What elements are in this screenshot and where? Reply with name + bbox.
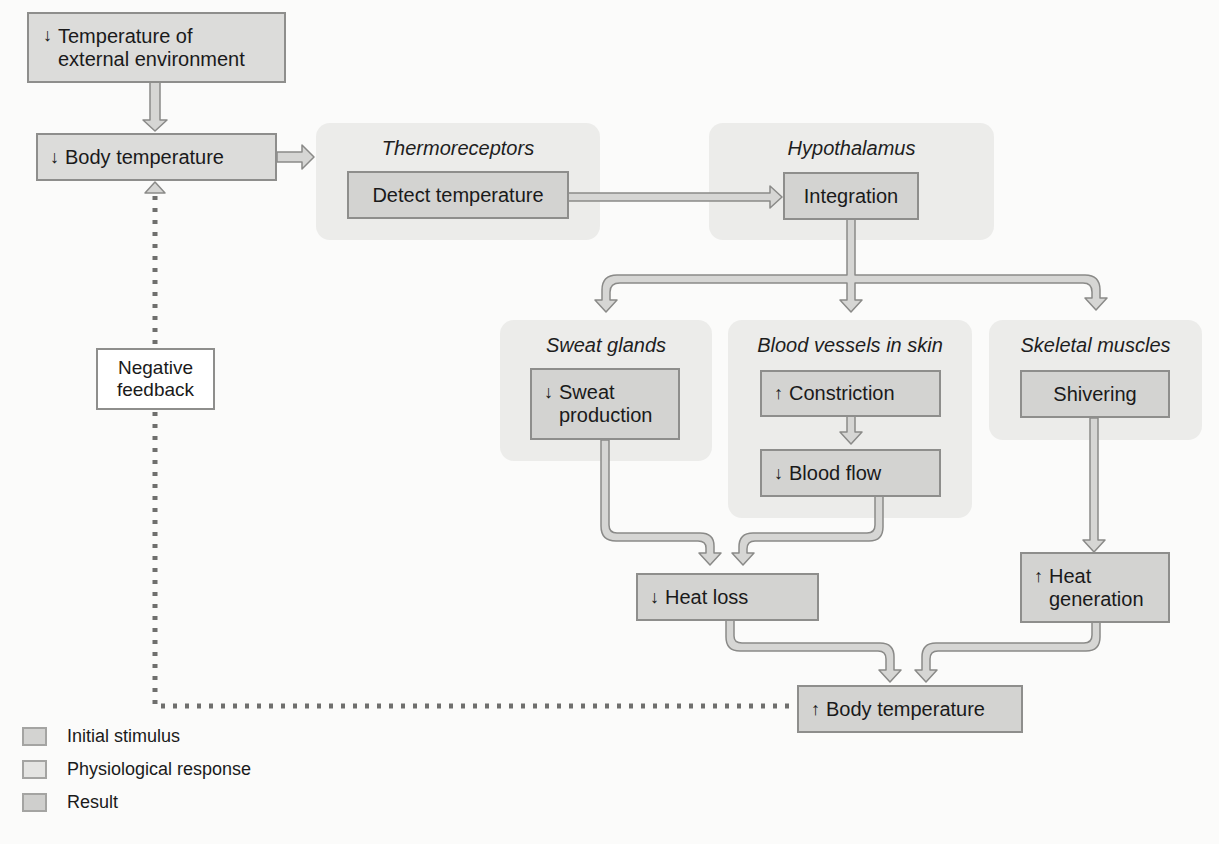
arrow-sweat-to-heat-loss: [601, 440, 721, 565]
negative-feedback-label: Negative feedback: [96, 348, 215, 410]
up-arrow-icon: ↑: [1034, 565, 1043, 588]
down-arrow-icon: ↓: [43, 24, 52, 47]
constriction-text: Constriction: [789, 382, 895, 405]
negative-feedback-line: [155, 196, 796, 706]
integration-box: Integration: [783, 172, 919, 220]
body-temperature-decrease-box: ↓ Body temperature: [36, 133, 277, 181]
legend-swatch-physiological-response: [22, 760, 47, 779]
legend-item-physiological-response: Physiological response: [22, 753, 251, 786]
sweat-production-text: Sweat production: [559, 381, 652, 427]
heat-generation-text: Heat generation: [1049, 565, 1144, 611]
down-arrow-icon: ↓: [544, 381, 553, 404]
heat-generation-box: ↑ Heat generation: [1020, 552, 1170, 623]
legend-label: Result: [67, 792, 118, 813]
legend-swatch-initial-stimulus: [22, 727, 47, 746]
arrow-shivering-to-heat-generation: [1083, 418, 1105, 552]
down-arrow-icon: ↓: [774, 462, 783, 485]
legend-label: Initial stimulus: [67, 726, 180, 747]
blood-flow-box: ↓ Blood flow: [760, 449, 941, 497]
stimulus-box: ↓ Temperature of external environment: [27, 12, 286, 83]
arrow-body-temp-to-thermoreceptors: [277, 145, 314, 169]
legend-label: Physiological response: [67, 759, 251, 780]
detect-temperature-box: Detect temperature: [347, 171, 569, 219]
blood-flow-text: Blood flow: [789, 462, 881, 485]
feedback-arrowhead: [145, 182, 165, 193]
constriction-box: ↑ Constriction: [760, 370, 941, 417]
heat-loss-box: ↓ Heat loss: [636, 573, 819, 621]
shivering-text: Shivering: [1053, 383, 1136, 406]
arrow-blood-flow-to-heat-loss: [732, 496, 883, 565]
arrow-stimulus-to-body-temp: [143, 82, 167, 131]
arrow-integration-branches: [595, 218, 1107, 312]
legend-item-initial-stimulus: Initial stimulus: [22, 720, 251, 753]
legend: Initial stimulus Physiological response …: [22, 720, 251, 819]
down-arrow-icon: ↓: [50, 146, 59, 169]
arrow-heat-loss-to-body-temp: [726, 620, 901, 682]
detect-temperature-text: Detect temperature: [372, 184, 543, 207]
stimulus-text: Temperature of external environment: [58, 25, 245, 71]
arrow-constriction-to-blood-flow: [840, 416, 862, 444]
down-arrow-icon: ↓: [650, 586, 659, 609]
integration-text: Integration: [804, 185, 899, 208]
up-arrow-icon: ↑: [774, 382, 783, 405]
up-arrow-icon: ↑: [811, 698, 820, 721]
legend-swatch-result: [22, 793, 47, 812]
arrow-detect-to-integration: [568, 186, 782, 208]
body-temp-down-text: Body temperature: [65, 146, 224, 169]
body-temp-up-text: Body temperature: [826, 698, 985, 721]
heat-loss-text: Heat loss: [665, 586, 748, 609]
arrow-heat-generation-to-body-temp: [915, 622, 1100, 682]
body-temperature-increase-box: ↑ Body temperature: [797, 685, 1023, 733]
legend-item-result: Result: [22, 786, 251, 819]
negative-feedback-text: Negative feedback: [117, 357, 194, 401]
sweat-production-box: ↓ Sweat production: [530, 368, 680, 440]
shivering-box: Shivering: [1020, 370, 1170, 418]
